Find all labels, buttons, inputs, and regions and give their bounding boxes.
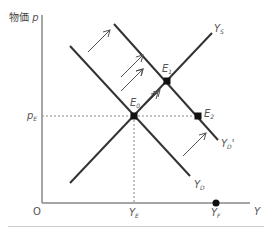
- equilibrium-point-e2: [195, 113, 202, 120]
- shift-arrow-icon: [148, 90, 160, 102]
- shift-arrow-icon: [121, 55, 143, 77]
- equilibrium-point-e1: [164, 78, 171, 85]
- x-axis-label: Y: [254, 207, 260, 217]
- origin-label: O: [33, 207, 41, 217]
- bottom-divider: [8, 226, 264, 227]
- shift-arrow-icon: [183, 133, 206, 156]
- shift-arrow-icon: [88, 30, 110, 52]
- yf-label: YF: [211, 208, 221, 221]
- e0-label: E0: [130, 98, 140, 111]
- pe-label: pE: [27, 111, 37, 124]
- y-axis-label-var: p: [32, 12, 38, 23]
- y-axis-label: 物価 p: [9, 13, 39, 23]
- e2-label: E2: [204, 109, 214, 122]
- yd-label: YD: [194, 180, 205, 193]
- shift-arrow-icon: [121, 69, 143, 91]
- y-axis-label-jp: 物価: [9, 12, 29, 23]
- ys-label: YS: [214, 24, 224, 37]
- e1-label: E1: [162, 64, 172, 77]
- equilibrium-point-e0: [131, 113, 138, 120]
- yd-prime-label: YD': [221, 139, 234, 152]
- aggregate-supply-demand-diagram: [0, 0, 277, 232]
- ye-label: YE: [129, 208, 139, 221]
- yf-point: [213, 200, 220, 207]
